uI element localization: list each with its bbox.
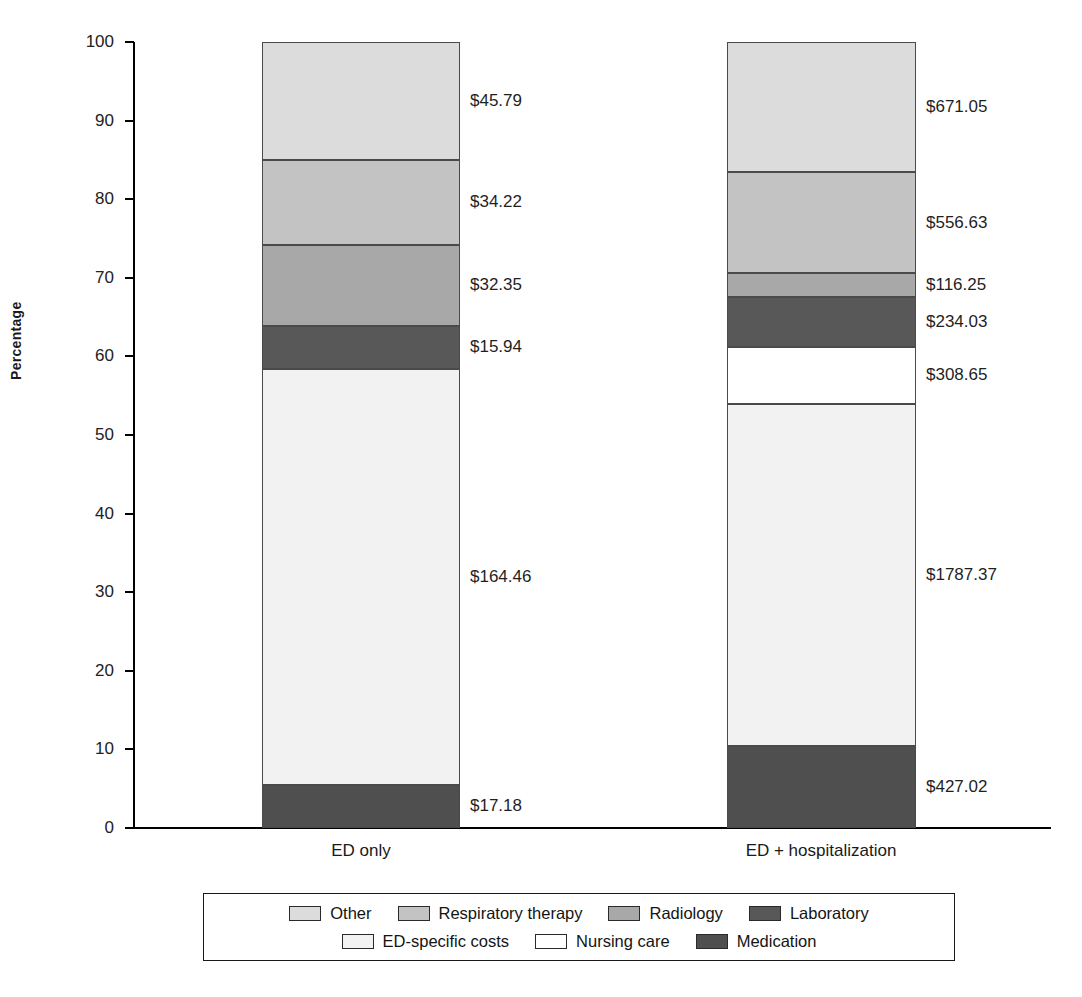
y-axis-tick-mark <box>125 41 134 43</box>
y-axis-tick-label: 40 <box>58 505 114 522</box>
legend-label: ED-specific costs <box>383 933 510 950</box>
y-axis-title: Percentage <box>8 302 24 380</box>
legend-swatch-icon <box>289 906 321 921</box>
segment-value-label: $32.35 <box>470 276 522 293</box>
segment-value-label: $164.46 <box>470 568 531 585</box>
y-axis-tick-mark <box>125 513 134 515</box>
legend-label: Medication <box>737 933 817 950</box>
segment-value-label: $116.25 <box>926 276 986 293</box>
stacked-bar-chart: Percentage 0102030405060708090100 OtherR… <box>0 0 1082 997</box>
segment-value-label: $34.22 <box>470 193 522 210</box>
legend-item-laboratory[interactable]: Laboratory <box>749 905 869 922</box>
legend-label: Radiology <box>649 905 722 922</box>
y-axis-tick-label: 80 <box>58 190 114 207</box>
legend-swatch-icon <box>535 934 567 949</box>
y-axis-tick-labels: 0102030405060708090100 <box>58 0 114 997</box>
legend-swatch-icon <box>398 906 430 921</box>
y-axis-tick-label: 30 <box>58 583 114 600</box>
bar-segment-other <box>727 42 916 172</box>
bar-segment-laboratory <box>262 326 460 369</box>
segment-value-label: $1787.37 <box>926 566 997 583</box>
y-axis-tick-mark <box>125 198 134 200</box>
bar-segment-medication <box>727 746 916 828</box>
legend-label: Respiratory therapy <box>439 905 583 922</box>
bar-segment-nursing-care <box>727 347 916 404</box>
segment-value-label: $45.79 <box>470 92 522 109</box>
legend-swatch-icon <box>696 934 728 949</box>
legend-item-ed-specific-costs[interactable]: ED-specific costs <box>342 933 510 950</box>
bar-ed-only <box>262 42 460 828</box>
segment-value-label: $308.65 <box>926 366 987 383</box>
y-axis-tick-label: 100 <box>58 33 114 50</box>
y-axis-tick-mark <box>125 670 134 672</box>
segment-value-label: $15.94 <box>470 338 522 355</box>
y-axis-tick-mark <box>125 355 134 357</box>
bar-segment-respiratory-therapy <box>262 160 460 245</box>
y-axis-tick-mark <box>125 277 134 279</box>
bar-segment-medication <box>262 785 460 828</box>
legend-item-radiology[interactable]: Radiology <box>608 905 722 922</box>
y-axis-tick-label: 20 <box>58 662 114 679</box>
legend-label: Laboratory <box>790 905 869 922</box>
chart-legend: OtherRespiratory therapyRadiologyLaborat… <box>203 893 955 961</box>
segment-value-label: $427.02 <box>926 778 987 795</box>
legend-label: Other <box>330 905 371 922</box>
x-axis-category-label: ED + hospitalization <box>661 841 981 861</box>
bar-segment-other <box>262 42 460 160</box>
legend-row: OtherRespiratory therapyRadiologyLaborat… <box>204 900 954 928</box>
legend-row: ED-specific costsNursing careMedication <box>204 928 954 956</box>
y-axis-tick-mark <box>125 434 134 436</box>
segment-value-label: $17.18 <box>470 797 522 814</box>
bar-segment-respiratory-therapy <box>727 172 916 273</box>
legend-item-nursing-care[interactable]: Nursing care <box>535 933 670 950</box>
legend-swatch-icon <box>608 906 640 921</box>
legend-label: Nursing care <box>576 933 670 950</box>
segment-value-label: $671.05 <box>926 98 987 115</box>
y-axis-tick-mark <box>125 827 134 829</box>
bar-ed-plus-hospitalization <box>727 42 916 828</box>
legend-swatch-icon <box>749 906 781 921</box>
y-axis-tick-label: 90 <box>58 112 114 129</box>
bar-segment-radiology <box>727 273 916 297</box>
bar-segment-ed-specific-costs <box>262 369 460 785</box>
y-axis-tick-label: 60 <box>58 347 114 364</box>
bar-segment-laboratory <box>727 297 916 347</box>
segment-value-label: $556.63 <box>926 214 987 231</box>
segment-value-label: $234.03 <box>926 313 987 330</box>
legend-item-medication[interactable]: Medication <box>696 933 817 950</box>
y-axis-tick-mark <box>125 748 134 750</box>
y-axis-tick-label: 50 <box>58 426 114 443</box>
legend-item-other[interactable]: Other <box>289 905 371 922</box>
x-axis-category-label: ED only <box>201 841 521 861</box>
y-axis-tick-label: 0 <box>58 819 114 836</box>
y-axis-tick-label: 10 <box>58 740 114 757</box>
y-axis-tick-label: 70 <box>58 269 114 286</box>
bar-segment-ed-specific-costs <box>727 404 916 747</box>
y-axis-tick-mark <box>125 591 134 593</box>
bar-segment-radiology <box>262 245 460 326</box>
legend-swatch-icon <box>342 934 374 949</box>
y-axis-tick-mark <box>125 120 134 122</box>
legend-item-respiratory-therapy[interactable]: Respiratory therapy <box>398 905 583 922</box>
